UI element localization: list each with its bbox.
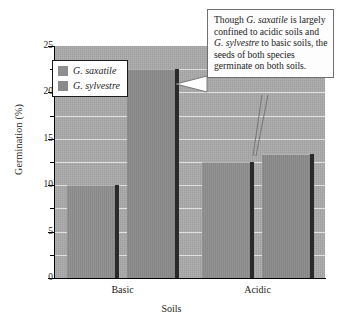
bar-basic-gsaxatile xyxy=(67,185,119,278)
bar-side-shadow xyxy=(250,162,254,278)
callout-text: Though xyxy=(214,14,246,25)
bar-side-shadow xyxy=(310,154,314,278)
y-tick-minor xyxy=(50,208,55,209)
bar-face xyxy=(262,154,314,278)
category-label-basic: Basic xyxy=(78,284,168,295)
y-tick-label: 0 xyxy=(13,273,53,283)
y-tick-label: 25 xyxy=(13,41,53,51)
legend-label-g-sylvestre: G. sylvestre xyxy=(73,80,120,91)
y-tick-minor xyxy=(50,255,55,256)
legend-swatch-icon-g-saxatile xyxy=(58,66,68,76)
gridline xyxy=(55,116,325,117)
legend-item-g-sylvestre: G. sylvestre xyxy=(58,79,120,92)
x-axis-title: Soils xyxy=(0,303,343,314)
bar-top-highlight xyxy=(202,162,250,163)
gridline xyxy=(55,139,325,140)
bar-top-highlight xyxy=(262,154,310,155)
legend-label-g-saxatile: G. saxatile xyxy=(73,65,116,76)
bar-top-highlight xyxy=(67,185,115,186)
bar-side-shadow xyxy=(115,185,119,278)
y-tick-minor xyxy=(50,116,55,117)
legend-item-g-saxatile: G. saxatile xyxy=(58,64,120,77)
bar-basic-gsylvestre xyxy=(127,69,179,278)
bar-acidic-gsylvestre xyxy=(262,154,314,278)
bar-top-highlight xyxy=(127,69,175,70)
bar-acidic-gsaxatile xyxy=(202,162,254,278)
y-axis-title: Germination (%) xyxy=(13,75,24,205)
bar-side-shadow xyxy=(175,69,179,278)
legend: G. saxatile G. sylvestre xyxy=(52,60,128,97)
bar-face xyxy=(67,185,119,278)
y-tick-label: 5 xyxy=(13,227,53,237)
bar-chart-figure: 0510152025 Germination (%) Soils BasicAc… xyxy=(0,0,343,321)
bar-face xyxy=(202,162,254,278)
bar-face xyxy=(127,69,179,278)
legend-swatch-icon-g-sylvestre xyxy=(58,81,68,91)
callout-annotation: Though G. saxatile is largely confined t… xyxy=(207,9,334,78)
category-label-acidic: Acidic xyxy=(213,284,303,295)
x-axis-line xyxy=(54,278,326,279)
callout-species-name: G. saxatile xyxy=(246,14,288,25)
callout-species-name: G. sylvestre xyxy=(214,37,259,48)
y-tick-minor xyxy=(50,162,55,163)
